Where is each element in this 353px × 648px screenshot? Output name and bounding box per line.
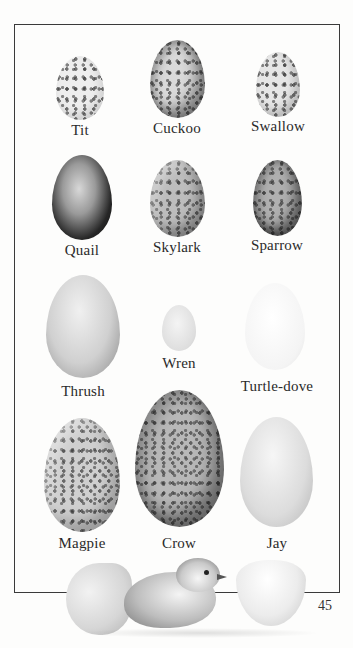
cracked-egg-shell-left (66, 563, 132, 635)
egg-label-tit: Tit (25, 122, 135, 139)
chick-head (176, 558, 220, 592)
egg-wren (162, 305, 196, 351)
egg-label-magpie: Magpie (27, 535, 137, 552)
egg-label-swallow: Swallow (223, 118, 333, 135)
egg-label-sparrow: Sparrow (222, 237, 332, 254)
ground-shadow (80, 628, 320, 638)
egg-label-wren: Wren (124, 355, 234, 372)
chick-beak (217, 574, 227, 580)
egg-label-turtle-dove: Turtle-dove (222, 378, 332, 395)
egg-label-cuckoo: Cuckoo (122, 120, 232, 137)
egg-label-quail: Quail (27, 242, 137, 259)
egg-label-skylark: Skylark (122, 239, 232, 256)
egg-label-crow: Crow (124, 535, 234, 552)
egg-label-jay: Jay (222, 535, 332, 552)
egg-label-thrush: Thrush (28, 383, 138, 400)
chick-eye (204, 570, 209, 575)
page-number: 45 (318, 598, 332, 614)
empty-eggshell-half (236, 560, 306, 626)
